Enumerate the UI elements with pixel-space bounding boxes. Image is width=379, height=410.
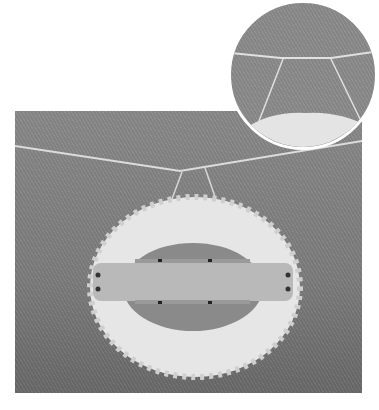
inset-scene — [231, 3, 378, 150]
yarn-closeup — [231, 113, 378, 150]
plastic-bar — [93, 263, 293, 301]
photo — [15, 111, 362, 393]
photo-scene — [15, 111, 362, 393]
magnified-inset — [228, 0, 378, 150]
